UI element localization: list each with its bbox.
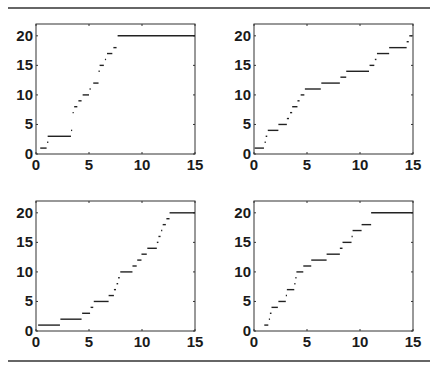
y-tick-label: 10 [16, 263, 33, 280]
y-tick-label: 0 [243, 322, 251, 339]
subplot-bottom-left: 05101505101520 [16, 201, 203, 350]
axes-box [36, 201, 195, 331]
x-tick-label: 15 [405, 333, 422, 350]
y-tick-label: 10 [16, 86, 33, 103]
y-tick-label: 0 [25, 322, 33, 339]
subplot-bottom-right: 05101505101520 [234, 201, 421, 350]
y-tick-label: 5 [243, 115, 251, 132]
y-tick-label: 15 [16, 233, 33, 250]
x-tick-label: 5 [85, 156, 93, 173]
x-tick-label: 15 [187, 156, 204, 173]
x-tick-label: 5 [303, 333, 311, 350]
axes-box [36, 24, 195, 154]
subplot-top-left: 05101505101520 [16, 24, 203, 173]
axes-box [254, 201, 413, 331]
figure: 05101505101520 05101505101520 0510150510… [0, 0, 438, 372]
y-tick-label: 20 [234, 27, 251, 44]
y-tick-label: 15 [234, 56, 251, 73]
x-tick-label: 0 [32, 156, 40, 173]
y-tick-label: 20 [16, 204, 33, 221]
x-tick-label: 0 [250, 156, 258, 173]
x-tick-label: 15 [187, 333, 204, 350]
y-tick-label: 20 [234, 204, 251, 221]
x-tick-label: 0 [250, 333, 258, 350]
x-tick-label: 10 [352, 156, 369, 173]
subplot-top-right: 05101505101520 [234, 24, 421, 173]
y-tick-label: 0 [25, 145, 33, 162]
y-tick-label: 10 [234, 86, 251, 103]
y-tick-label: 5 [25, 292, 33, 309]
x-tick-label: 10 [352, 333, 369, 350]
y-tick-label: 10 [234, 263, 251, 280]
y-tick-label: 5 [25, 115, 33, 132]
x-tick-label: 10 [134, 156, 151, 173]
y-tick-label: 15 [16, 56, 33, 73]
y-tick-label: 15 [234, 233, 251, 250]
x-tick-label: 0 [32, 333, 40, 350]
y-tick-label: 20 [16, 27, 33, 44]
x-tick-label: 5 [303, 156, 311, 173]
y-tick-label: 0 [243, 145, 251, 162]
x-tick-label: 10 [134, 333, 151, 350]
axes-box [254, 24, 413, 154]
y-tick-label: 5 [243, 292, 251, 309]
x-tick-label: 5 [85, 333, 93, 350]
x-tick-label: 15 [405, 156, 422, 173]
